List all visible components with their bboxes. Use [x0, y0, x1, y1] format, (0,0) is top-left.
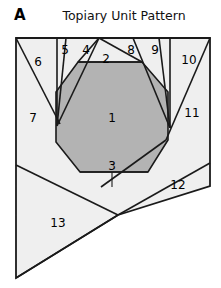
region-label-2: 2: [102, 52, 110, 66]
region-label-1: 1: [108, 111, 116, 125]
region-label-13: 13: [50, 216, 65, 230]
region-label-3: 3: [108, 159, 116, 173]
region-label-8: 8: [127, 43, 135, 57]
region-label-7: 7: [29, 111, 37, 125]
region-label-9: 9: [151, 43, 159, 57]
region-label-5: 5: [61, 43, 69, 57]
region-label-12: 12: [170, 178, 185, 192]
figure-container: A Topiary Unit Pattern 12345678910111213: [0, 0, 221, 288]
topiary-unit-pattern-diagram: 12345678910111213: [0, 0, 221, 288]
region-label-11: 11: [184, 106, 199, 120]
region-label-6: 6: [34, 55, 42, 69]
region-label-10: 10: [181, 53, 196, 67]
region-label-4: 4: [82, 43, 90, 57]
